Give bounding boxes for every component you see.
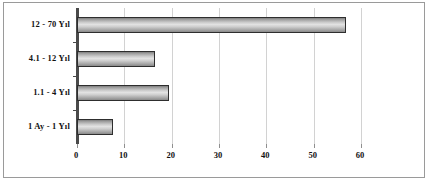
x-tick-label-50: 50 [298,150,328,160]
x-tick-label-0: 0 [61,150,91,160]
x-tick-mark-0 [77,144,78,148]
y-tick-mark [73,42,77,43]
plot-area [76,8,360,144]
bar-row [77,76,360,110]
x-tick-mark-30 [219,144,220,148]
category-label-3: 12 - 70 Yıl [0,19,70,29]
bar [77,17,346,33]
bar [77,85,169,101]
x-tick-label-20: 20 [156,150,186,160]
bar [77,119,113,135]
y-tick-mark [73,76,77,77]
x-tick-mark-40 [266,144,267,148]
x-tick-mark-20 [172,144,173,148]
bar-row [77,42,360,76]
y-tick-mark [73,110,77,111]
x-tick-label-10: 10 [108,150,138,160]
category-label-2: 4.1 - 12 Yıl [0,53,70,63]
x-tick-mark-60 [361,144,362,148]
gridline-60 [361,8,362,144]
bar-row [77,8,360,42]
category-label-0: 1 Ay - 1 Yıl [0,121,70,131]
x-tick-mark-10 [124,144,125,148]
x-tick-label-40: 40 [250,150,280,160]
x-tick-mark-50 [314,144,315,148]
bar-row [77,110,360,144]
category-label-1: 1.1 - 4 Yıl [0,87,70,97]
bar [77,51,155,67]
bar-chart: 12 - 70 Yıl4.1 - 12 Yıl1.1 - 4 Yıl1 Ay -… [0,0,429,181]
x-tick-label-30: 30 [203,150,233,160]
x-tick-label-60: 60 [345,150,375,160]
